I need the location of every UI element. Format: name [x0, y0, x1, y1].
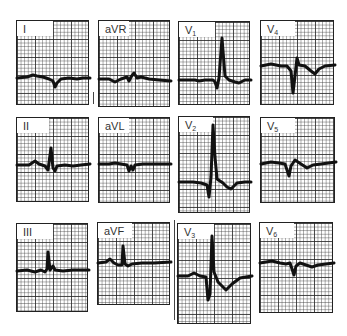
ecg-waveform — [260, 223, 334, 314]
ecg-lead-panel-ii: II — [16, 117, 89, 202]
ecg-lead-panel-i: I — [16, 20, 89, 105]
ecg-waveform — [17, 118, 90, 203]
ecg-lead-panel-v6: V6 — [259, 222, 333, 313]
ecg-lead-panel-v3: V3 — [177, 223, 251, 324]
ecg-waveform — [17, 224, 89, 313]
ecg-waveform — [99, 118, 171, 204]
ecg-lead-panel-v5: V5 — [260, 117, 335, 203]
ecg-waveform — [98, 223, 171, 306]
ecg-lead-panel-avr: aVR — [98, 20, 170, 107]
ecg-waveform — [178, 224, 252, 325]
ecg-lead-panel-v2: V2 — [178, 116, 250, 213]
ecg-waveform — [261, 21, 335, 106]
ecg-waveform — [261, 118, 336, 204]
ecg-waveform — [99, 21, 171, 108]
ecg-waveform — [17, 21, 90, 106]
ecg-lead-panel-iii: III — [16, 223, 88, 312]
ecg-waveform — [179, 117, 251, 214]
ecg-lead-panel-avf: aVF — [97, 222, 170, 305]
ecg-waveform — [179, 22, 251, 106]
ecg-lead-panel-v4: V4 — [260, 20, 334, 105]
separator-line — [174, 220, 175, 320]
ecg-lead-panel-avl: aVL — [98, 117, 170, 203]
separator-line — [93, 92, 94, 104]
ecg-lead-panel-v1: V1 — [178, 21, 250, 105]
